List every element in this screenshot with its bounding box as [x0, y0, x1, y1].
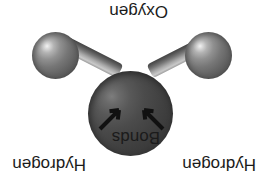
- hydrogen-label-left: Hydrogen: [182, 156, 256, 173]
- hydrogen-atom-sphere-left: [185, 32, 232, 79]
- rotated-illustration-group: Oxygen Hydrogen Hydrogen Bonds: [0, 0, 270, 179]
- hydrogen-atom-sphere-right: [32, 32, 79, 79]
- bonds-label: Bonds: [112, 129, 160, 146]
- hydrogen-label-right: Hydrogen: [12, 156, 86, 173]
- water-molecule-diagram: Oxygen Hydrogen Hydrogen Bonds: [0, 0, 270, 179]
- oxygen-label: Oxygen: [109, 3, 168, 20]
